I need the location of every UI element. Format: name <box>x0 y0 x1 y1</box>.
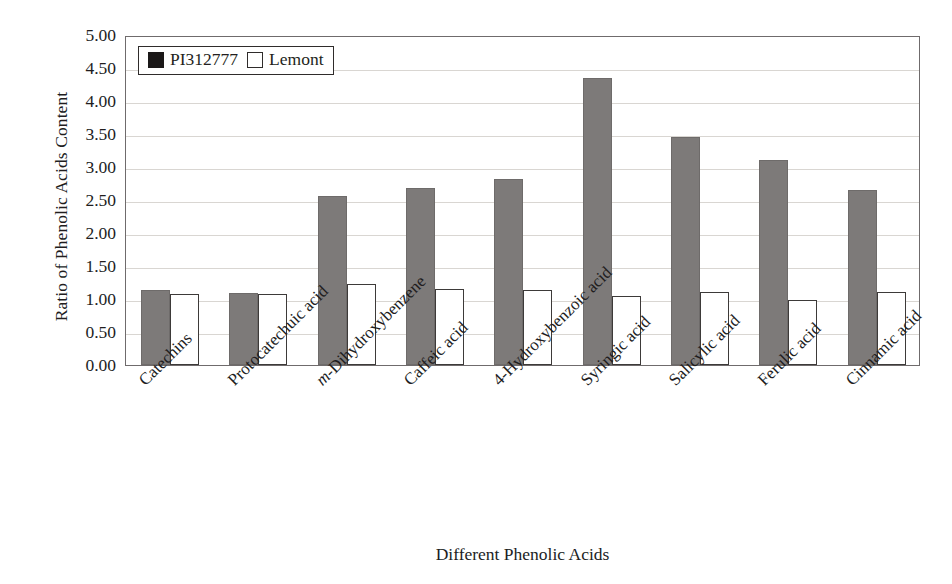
y-axis-tick-label: 4.00 <box>48 93 116 111</box>
y-axis-tick-labels: 5.004.504.003.503.002.502.001.501.000.50… <box>48 36 116 366</box>
legend-entry: Lemont <box>247 51 323 69</box>
y-axis-tick-label: 0.50 <box>48 324 116 342</box>
y-axis-tick-label: 1.50 <box>48 258 116 276</box>
y-axis-tick-label: 3.00 <box>48 159 116 177</box>
y-axis-tick-label: 2.00 <box>48 225 116 243</box>
x-axis-category-labels: CatechinsProtocatechuic acidm-Dihydroxyb… <box>125 366 920 516</box>
bar-pi312777-ferulic-acid <box>759 160 788 365</box>
y-axis-tick-label: 1.00 <box>48 291 116 309</box>
chart-legend: PI312777Lemont <box>138 46 334 75</box>
bars-layer <box>126 37 919 365</box>
bar-group <box>744 37 832 365</box>
y-axis-tick-label: 3.50 <box>48 126 116 144</box>
bar-group <box>126 37 214 365</box>
y-axis-tick-label: 5.00 <box>48 27 116 45</box>
bar-pi312777-salicylic-acid <box>671 137 700 365</box>
bar-pi312777-syringic-acid <box>583 78 612 365</box>
y-axis-tick-label: 0.00 <box>48 357 116 375</box>
phenolic-acids-bar-chart: Ratio of Phenolic Acids Content 5.004.50… <box>0 0 952 584</box>
bar-pi312777-m-dihydroxybenzene <box>318 196 347 365</box>
y-axis-tick-label: 4.50 <box>48 60 116 78</box>
open-square-icon <box>247 52 263 68</box>
bar-group <box>391 37 479 365</box>
bar-pi312777-4-hydroxybenzoic-acid <box>494 179 523 365</box>
y-axis-tick-label: 2.50 <box>48 192 116 210</box>
x-axis-title: Different Phenolic Acids <box>125 544 920 565</box>
bar-pi312777-cinnamic-acid <box>848 190 877 365</box>
plot-area <box>125 36 920 366</box>
legend-label: PI312777 <box>170 51 238 69</box>
filled-square-icon <box>148 52 164 68</box>
legend-label: Lemont <box>269 51 323 69</box>
legend-entry: PI312777 <box>148 51 238 69</box>
